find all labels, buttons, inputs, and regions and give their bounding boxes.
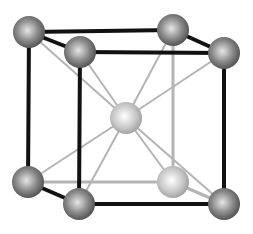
atom-front-bottom-left: [63, 188, 95, 220]
cube-edge: [29, 30, 173, 32]
atom-back-top-right: [157, 14, 189, 46]
bcc-unit-cell-diagram: [0, 0, 253, 234]
cube-edge: [80, 52, 224, 53]
cube-edge: [79, 52, 80, 204]
atom-back-top-left: [13, 16, 45, 48]
body-diagonal: [126, 53, 224, 118]
body-diagonal: [28, 118, 126, 182]
atom-body-center: [110, 102, 142, 134]
atom-front-top-left: [64, 36, 96, 68]
atom-back-bottom-left: [12, 166, 44, 198]
atom-front-top-right: [208, 37, 240, 69]
atom-back-bottom-right: [157, 166, 189, 198]
atom-front-bottom-right: [208, 188, 240, 220]
cube-edge: [28, 32, 29, 182]
